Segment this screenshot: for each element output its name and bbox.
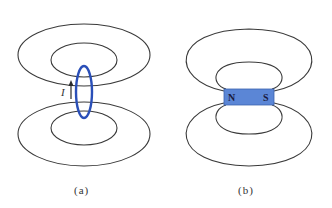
- caption-a: (a): [74, 184, 89, 196]
- panel-b-bar-magnet: N S: [186, 29, 312, 166]
- field-line-top-inner: [216, 62, 282, 89]
- field-line-bottom-inner: [216, 105, 282, 134]
- figure-canvas: I N S: [0, 0, 332, 208]
- current-loop-ring: [76, 66, 92, 118]
- field-line-top-outer: [186, 29, 312, 91]
- north-pole-label: N: [228, 92, 236, 103]
- field-line-top-inner: [51, 43, 117, 77]
- panel-a-current-loop: I: [18, 24, 150, 166]
- field-line-bottom-outer: [18, 102, 150, 166]
- magnetic-field-figure: I N S (a) (b): [0, 0, 332, 208]
- current-arrow-icon: [69, 80, 74, 99]
- south-pole-label: S: [263, 92, 269, 103]
- caption-b: (b): [238, 184, 254, 196]
- current-label: I: [60, 86, 66, 98]
- field-line-bottom-inner: [51, 111, 117, 145]
